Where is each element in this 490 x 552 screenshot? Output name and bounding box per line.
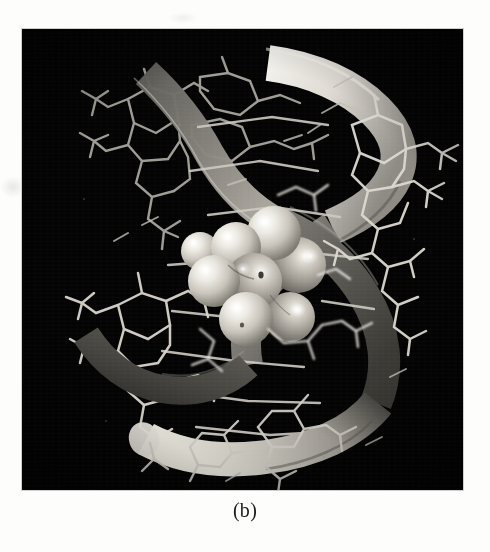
figure-root: (b) — [0, 0, 490, 552]
dna-molecule-illustration — [22, 29, 463, 490]
figure-caption: (b) — [0, 498, 490, 522]
paper-smudge-top — [168, 12, 198, 24]
figure-image-panel — [22, 29, 463, 490]
